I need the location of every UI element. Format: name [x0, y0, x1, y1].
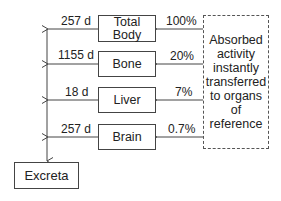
source-box: Absorbed activity instantly transferred …	[203, 15, 269, 149]
half-life-liver: 18 d	[65, 86, 88, 99]
organ-box-bone: Bone	[98, 51, 156, 77]
fraction-brain: 0.7%	[168, 123, 195, 136]
organ-label: Brain	[112, 131, 141, 144]
half-life-brain: 257 d	[61, 123, 91, 136]
organ-box-liver: Liver	[98, 87, 156, 113]
organ-box-brain: Brain	[98, 124, 156, 150]
source-line: instantly	[213, 61, 259, 75]
fraction-total-body: 100%	[166, 15, 197, 28]
source-line: to organs of	[204, 89, 268, 117]
source-line: Absorbed	[209, 33, 263, 47]
fraction-liver: 7%	[175, 86, 192, 99]
source-line: transferred	[206, 75, 266, 89]
excreta-label: Excreta	[24, 169, 68, 182]
organ-label: Bone	[112, 58, 141, 71]
fraction-bone: 20%	[170, 50, 194, 63]
organ-label-line: Total	[114, 16, 140, 29]
source-line: reference	[210, 117, 263, 131]
organ-label: Liver	[113, 94, 140, 107]
half-life-total-body: 257 d	[61, 15, 91, 28]
organ-label-line: Body	[113, 29, 142, 42]
organ-box-total-body: Total Body	[98, 15, 156, 42]
excreta-box: Excreta	[14, 162, 79, 189]
half-life-bone: 1155 d	[58, 49, 94, 62]
source-line: activity	[217, 47, 255, 61]
